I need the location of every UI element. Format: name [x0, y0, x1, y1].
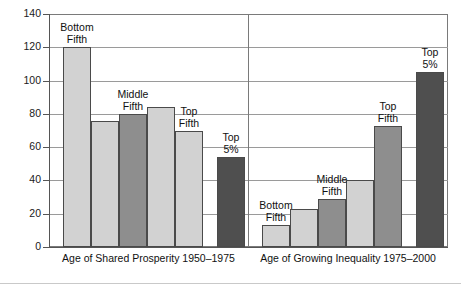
y-tick-label: 40: [5, 174, 41, 185]
bar: [318, 199, 346, 247]
bar: [91, 121, 119, 247]
y-tick-label: 100: [5, 75, 41, 86]
group-caption: Age of Shared Prosperity 1950–1975: [49, 252, 248, 264]
y-tick-label-wrap: 80: [0, 108, 41, 119]
y-tick-label-wrap: 140: [0, 8, 41, 19]
bar: [119, 114, 147, 247]
bar-label-line1: Middle: [306, 173, 358, 185]
bar-label-line2: Fifth: [163, 117, 215, 129]
bar-label-line2: 5%: [404, 58, 456, 70]
bar-label-line1: Top: [205, 131, 257, 143]
bar-label: Top5%: [205, 131, 257, 155]
bar-label-line2: 5%: [205, 143, 257, 155]
bar: [63, 47, 91, 247]
bar-label-line1: Bottom: [250, 199, 302, 211]
bar-label-line1: Bottom: [51, 21, 103, 33]
bar: [416, 72, 444, 247]
bar-label: TopFifth: [163, 105, 215, 129]
bar-label-line2: Fifth: [107, 100, 159, 112]
y-tick-label: 60: [5, 141, 41, 152]
bar-label: MiddleFifth: [306, 173, 358, 197]
bar-label-line2: Fifth: [306, 185, 358, 197]
y-tick-label-wrap: 40: [0, 174, 41, 185]
x-axis-line: [49, 247, 448, 248]
bar-label: MiddleFifth: [107, 88, 159, 112]
y-tick-label: 80: [5, 108, 41, 119]
bar: [374, 126, 402, 247]
bar-label-line1: Top: [163, 105, 215, 117]
bar-label-line1: Top: [404, 46, 456, 58]
bar-label: BottomFifth: [51, 21, 103, 45]
bar-label: TopFifth: [362, 100, 414, 124]
bar-label-line1: Top: [362, 100, 414, 112]
y-tick-label: 140: [5, 8, 41, 19]
bar-label-line2: Fifth: [250, 211, 302, 223]
bar: [262, 225, 290, 247]
bar-label-line2: Fifth: [362, 112, 414, 124]
group-caption: Age of Growing Inequality 1975–2000: [248, 252, 448, 264]
y-tick-label-wrap: 100: [0, 75, 41, 86]
y-tick-label-wrap: 60: [0, 141, 41, 152]
bar-label: Top5%: [404, 46, 456, 70]
bar: [175, 131, 203, 248]
y-axis-line: [49, 14, 50, 248]
y-tick-label: 0: [5, 241, 41, 252]
bar-chart: 020406080100120140 BottomFifthMiddleFift…: [0, 0, 461, 284]
y-tick-label-wrap: 120: [0, 41, 41, 52]
bar-label: BottomFifth: [250, 199, 302, 223]
y-tick-label: 120: [5, 41, 41, 52]
y-tick-label-wrap: 0: [0, 241, 41, 252]
y-tick-label: 20: [5, 208, 41, 219]
y-tick-label-wrap: 20: [0, 208, 41, 219]
bar-label-line2: Fifth: [51, 33, 103, 45]
bar-label-line1: Middle: [107, 88, 159, 100]
bar: [217, 157, 245, 247]
